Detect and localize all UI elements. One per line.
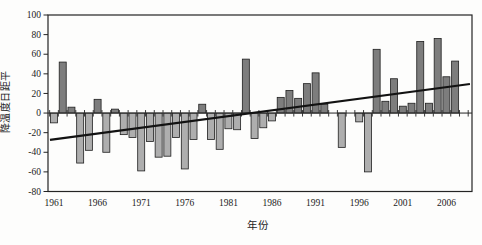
bar-1988 xyxy=(286,91,293,114)
bar-1997 xyxy=(364,113,371,172)
bar-1964 xyxy=(77,113,84,163)
bar-1984 xyxy=(251,113,258,138)
bar-1990 xyxy=(303,84,310,113)
bar-1998 xyxy=(373,49,380,113)
bar-1963 xyxy=(68,107,75,113)
bar-1985 xyxy=(260,113,267,128)
y-tick-label: 0 xyxy=(36,108,41,118)
bar-2006 xyxy=(443,77,450,113)
bar-2005 xyxy=(434,39,441,114)
y-tick-label: -80 xyxy=(28,187,41,197)
bar-1974 xyxy=(164,113,171,156)
y-tick-label: -60 xyxy=(28,167,41,177)
y-tick-label: 40 xyxy=(32,69,42,79)
bar-1979 xyxy=(207,113,214,139)
bar-1965 xyxy=(85,113,92,150)
bar-2001 xyxy=(399,106,406,113)
y-tick-label: 20 xyxy=(32,89,42,99)
y-tick-label: -20 xyxy=(28,128,41,138)
y-tick-label: 80 xyxy=(32,30,42,40)
bar-1999 xyxy=(382,101,389,113)
bar-1987 xyxy=(277,97,284,113)
x-tick-label: 1981 xyxy=(219,198,238,208)
bar-1994 xyxy=(338,113,345,147)
x-tick-label: 1966 xyxy=(88,198,107,208)
bar-2000 xyxy=(391,79,398,113)
bar-1992 xyxy=(321,104,328,113)
x-tick-label: 2006 xyxy=(437,198,456,208)
x-tick-label: 1996 xyxy=(350,198,369,208)
bar-1975 xyxy=(173,113,180,138)
bar-1977 xyxy=(190,113,197,139)
chart-canvas: 100806040200-20-40-60-801961196619711976… xyxy=(0,0,482,245)
bar-2003 xyxy=(417,41,424,113)
bar-1991 xyxy=(312,73,319,113)
bar-1983 xyxy=(242,59,249,113)
y-tick-label: 60 xyxy=(32,49,42,59)
y-axis-title: 降温度日距平 xyxy=(0,70,11,133)
x-tick-label: 1971 xyxy=(132,198,151,208)
x-tick-label: 1961 xyxy=(45,198,64,208)
y-tick-label: 100 xyxy=(27,10,42,20)
bar-1971 xyxy=(138,113,145,171)
bar-1961 xyxy=(51,113,58,123)
bar-1996 xyxy=(356,113,363,122)
bar-1970 xyxy=(129,113,136,138)
bar-1986 xyxy=(269,113,276,121)
x-tick-label: 1991 xyxy=(306,198,325,208)
bar-1962 xyxy=(59,62,66,113)
x-axis-title: 年份 xyxy=(247,219,269,231)
x-tick-label: 1976 xyxy=(175,198,194,208)
bar-1968 xyxy=(112,109,119,113)
bar-2004 xyxy=(425,103,432,113)
bar-1973 xyxy=(155,113,162,157)
bar-2002 xyxy=(408,103,415,113)
y-tick-label: -40 xyxy=(28,147,41,157)
bar-1978 xyxy=(199,104,206,113)
bar-1966 xyxy=(94,99,101,113)
x-tick-label: 1986 xyxy=(263,198,282,208)
bar-chart-figure: 100806040200-20-40-60-801961196619711976… xyxy=(0,0,482,245)
x-tick-label: 2001 xyxy=(393,198,412,208)
